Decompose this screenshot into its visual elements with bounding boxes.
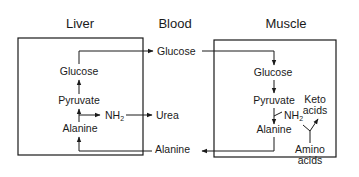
blood-alanine: Alanine xyxy=(155,143,190,155)
amino-to-nh2-branch xyxy=(303,125,310,131)
muscle-nh2: NH2 xyxy=(284,109,303,122)
blood-urea: Urea xyxy=(156,109,179,121)
liver-glucose: Glucose xyxy=(60,65,99,77)
arrow-liver-glucose-to-blood xyxy=(79,51,153,64)
arrow-amino-to-keto xyxy=(310,119,318,131)
glucose-alanine-cycle-diagram: Liver Blood Muscle Glucose Pyruvate Alan… xyxy=(0,0,359,177)
muscle-glucose: Glucose xyxy=(254,66,293,78)
arrow-muscle-alanine-to-blood xyxy=(202,137,274,151)
arrow-blood-glucose-to-muscle xyxy=(202,51,274,65)
liver-nh2: NH2 xyxy=(105,109,124,122)
muscle-nh2-branch xyxy=(274,112,282,116)
liver-pyruvate: Pyruvate xyxy=(58,94,100,106)
liver-alanine: Alanine xyxy=(62,122,97,134)
muscle-alanine: Alanine xyxy=(256,123,291,135)
arrow-blood-alanine-to-liver xyxy=(79,137,152,151)
muscle-title: Muscle xyxy=(265,16,306,31)
liver-title: Liver xyxy=(66,16,95,31)
muscle-keto-line2: acids xyxy=(303,104,328,116)
muscle-amino-line2: acids xyxy=(298,154,323,166)
blood-title: Blood xyxy=(158,16,191,31)
blood-glucose: Glucose xyxy=(157,45,196,57)
muscle-pyruvate: Pyruvate xyxy=(253,94,295,106)
